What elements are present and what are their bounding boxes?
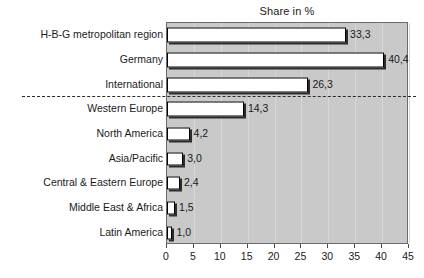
bar — [167, 28, 346, 43]
category-label: Latin America — [3, 226, 163, 238]
bar — [167, 53, 384, 68]
x-axis-tick-mark — [247, 244, 248, 248]
bar — [167, 177, 180, 190]
group-separator — [22, 96, 416, 97]
x-axis-tick-mark — [300, 244, 301, 248]
category-label: Middle East & Africa — [3, 201, 163, 213]
category-label: Central & Eastern Europe — [3, 176, 163, 188]
category-label: Asia/Pacific — [3, 152, 163, 164]
x-axis-tick-label: 40 — [375, 250, 387, 262]
x-axis-tick-label: 30 — [321, 250, 333, 262]
bar-value-label: 33,3 — [350, 28, 370, 40]
category-label: International — [3, 78, 163, 90]
x-axis-tick-mark — [193, 244, 194, 248]
bar-value-label: 1,5 — [179, 201, 194, 213]
bar-value-label: 26,3 — [312, 78, 332, 90]
bar — [167, 128, 190, 141]
category-label: Western Europe — [3, 102, 163, 114]
x-axis-tick-mark — [408, 244, 409, 248]
bar-value-label: 2,4 — [184, 176, 199, 188]
x-axis-tick-mark — [166, 244, 167, 248]
x-axis-tick-label: 20 — [268, 250, 280, 262]
x-axis-tick-mark — [327, 244, 328, 248]
x-axis-tick-label: 25 — [295, 250, 307, 262]
category-label-column: H-B-G metropolitan regionGermanyInternat… — [0, 22, 163, 244]
bar-value-label: 40,4 — [388, 53, 408, 65]
bar-value-label: 14,3 — [248, 102, 268, 114]
x-axis-tick-label: 15 — [241, 250, 253, 262]
x-axis-tick-label: 10 — [214, 250, 226, 262]
x-axis-tick-label: 45 — [402, 250, 414, 262]
gridline — [409, 23, 410, 243]
x-axis-tick-mark — [220, 244, 221, 248]
bar — [167, 102, 244, 117]
bar — [167, 226, 172, 239]
x-axis-tick-label: 5 — [190, 250, 196, 262]
category-label: Germany — [3, 53, 163, 65]
bar — [167, 202, 175, 215]
chart-title: Share in % — [166, 5, 408, 17]
bar — [167, 77, 308, 92]
x-axis-tick-label: 35 — [348, 250, 360, 262]
x-axis-tick-mark — [354, 244, 355, 248]
bar-chart: Share in % H-B-G metropolitan regionGerm… — [0, 0, 424, 278]
bar-value-label: 3,0 — [187, 152, 202, 164]
x-axis-tick-label: 0 — [163, 250, 169, 262]
x-axis-tick-mark — [274, 244, 275, 248]
x-axis-tick-mark — [381, 244, 382, 248]
bar-value-label: 4,2 — [194, 127, 209, 139]
category-label: North America — [3, 127, 163, 139]
bar — [167, 152, 183, 165]
category-label: H-B-G metropolitan region — [3, 28, 163, 40]
bar-value-label: 1,0 — [176, 226, 191, 238]
